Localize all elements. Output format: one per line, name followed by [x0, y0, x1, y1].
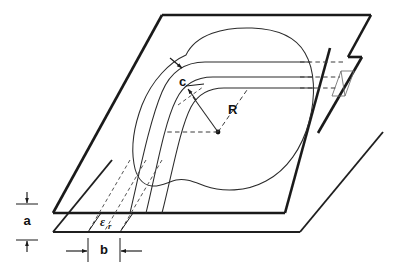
bottom-plate-right-edge: [300, 132, 383, 232]
radius-arrow-head: [188, 89, 196, 100]
plate-separation-annotation: a: [16, 192, 38, 252]
substrate-width-annotation: b: [66, 238, 142, 262]
strip-width-label: c: [179, 74, 186, 89]
top-ground-plane: [53, 15, 371, 213]
top-plate-left-edge: [53, 15, 162, 213]
conducting-strip: [130, 62, 315, 213]
top-plate-right-edge-lower: [285, 48, 330, 213]
blob-closed-curve: [133, 28, 314, 190]
blob-region-outline: [133, 28, 314, 190]
strip-width-leader-arrow: [170, 58, 182, 68]
radius-label: R: [228, 102, 238, 117]
strip-edge-outer: [130, 62, 310, 213]
substrate-width-label: b: [100, 242, 108, 257]
radius-solid-line: [193, 97, 218, 132]
plate-separation-label: a: [23, 213, 31, 228]
top-plate-right-edge-upper: [348, 15, 371, 57]
notch-cross-left: [332, 71, 341, 96]
strip-edge-inner: [162, 88, 315, 213]
stripline-bend-diagram: R c a b ε r: [0, 0, 413, 270]
permittivity-subscript: r: [108, 221, 112, 231]
figure-container: R c a b ε r: [0, 0, 413, 270]
permittivity-symbol: ε: [100, 215, 105, 229]
dielectric-slice-right-face: [120, 213, 133, 232]
strip-edge-middle: [146, 77, 312, 213]
